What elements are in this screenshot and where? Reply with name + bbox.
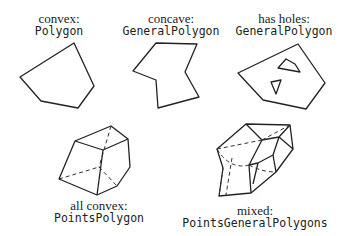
diagram-canvas <box>0 0 344 236</box>
hole-quad <box>278 59 300 72</box>
points-polygon-shape <box>59 126 130 195</box>
convex-polygon-shape <box>20 43 94 108</box>
concave-polygon-shape <box>133 43 199 108</box>
mixed-polygon-shape <box>217 124 293 196</box>
hole-triangle <box>271 80 281 94</box>
holes-polygon-shape <box>238 44 325 109</box>
